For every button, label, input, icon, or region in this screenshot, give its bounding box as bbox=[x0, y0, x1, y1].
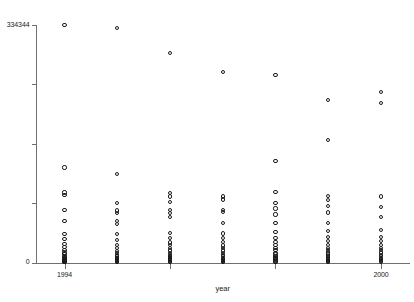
data-point bbox=[62, 165, 66, 169]
data-point bbox=[326, 198, 330, 202]
data-point bbox=[273, 73, 277, 77]
data-point bbox=[326, 204, 330, 208]
data-point bbox=[379, 260, 383, 264]
data-point bbox=[379, 205, 383, 209]
y-tick-label: 0 bbox=[26, 258, 30, 265]
data-point bbox=[62, 23, 66, 27]
data-point bbox=[379, 228, 383, 232]
data-point bbox=[326, 221, 330, 225]
data-point bbox=[221, 260, 225, 264]
data-point bbox=[326, 98, 330, 102]
y-tick bbox=[32, 263, 37, 264]
data-point bbox=[326, 138, 330, 142]
data-point bbox=[62, 208, 66, 212]
data-point bbox=[379, 215, 383, 219]
data-point bbox=[273, 212, 277, 216]
data-point bbox=[221, 221, 225, 225]
x-tick-label: 2000 bbox=[361, 271, 401, 278]
data-point bbox=[115, 232, 119, 236]
y-tick bbox=[32, 25, 37, 26]
data-point bbox=[221, 231, 225, 235]
data-point bbox=[115, 260, 119, 264]
data-point bbox=[273, 201, 277, 205]
data-point bbox=[62, 232, 66, 236]
data-point bbox=[379, 101, 383, 105]
data-point bbox=[273, 159, 277, 163]
scatter-plot: 0334344 19942000 year bbox=[0, 0, 414, 302]
data-point bbox=[221, 197, 225, 201]
data-point bbox=[62, 237, 66, 241]
data-point bbox=[273, 230, 277, 234]
data-point bbox=[115, 201, 119, 205]
data-point bbox=[273, 206, 277, 210]
y-tick-label: 334344 bbox=[7, 21, 30, 28]
data-point bbox=[115, 222, 119, 226]
x-tick bbox=[65, 264, 66, 269]
data-point bbox=[168, 194, 172, 198]
data-point bbox=[326, 260, 330, 264]
data-point bbox=[115, 172, 119, 176]
data-point bbox=[273, 260, 277, 264]
data-point bbox=[115, 211, 119, 215]
x-tick-label: 1994 bbox=[45, 271, 85, 278]
data-point bbox=[168, 260, 172, 264]
data-point bbox=[115, 26, 119, 30]
data-point bbox=[168, 200, 172, 204]
data-point bbox=[379, 194, 383, 198]
data-point bbox=[62, 219, 66, 223]
data-point bbox=[326, 210, 330, 214]
x-tick bbox=[275, 264, 276, 269]
y-tick bbox=[32, 84, 37, 85]
x-tick bbox=[381, 264, 382, 269]
data-point bbox=[273, 190, 277, 194]
data-point bbox=[168, 231, 172, 235]
data-point bbox=[379, 90, 383, 94]
y-tick bbox=[32, 203, 37, 204]
data-point bbox=[115, 238, 119, 242]
data-point bbox=[221, 210, 225, 214]
x-axis-title: year bbox=[16, 284, 414, 293]
data-point bbox=[168, 51, 172, 55]
data-point bbox=[62, 260, 66, 264]
x-tick bbox=[170, 264, 171, 269]
data-point bbox=[273, 221, 277, 225]
data-point bbox=[326, 229, 330, 233]
data-point bbox=[62, 193, 66, 197]
data-point bbox=[221, 70, 225, 74]
y-tick bbox=[32, 144, 37, 145]
data-point bbox=[168, 215, 172, 219]
